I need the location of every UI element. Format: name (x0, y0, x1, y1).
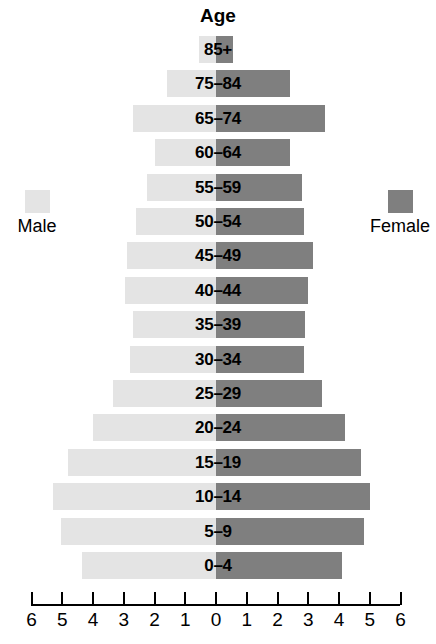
pyramid-row: 25–29 (0, 380, 436, 407)
axis-tick-label: 5 (49, 608, 75, 632)
axis-tick-label: 0 (203, 608, 229, 632)
age-group-label: 10–14 (0, 483, 436, 510)
axis-tick-label: 6 (19, 608, 45, 632)
age-group-label: 25–29 (0, 380, 436, 407)
axis-tick (338, 592, 340, 605)
legend-label-female: Female (366, 215, 434, 237)
age-group-label: 40–44 (0, 277, 436, 304)
axis-tick-label: 4 (80, 608, 106, 632)
pyramid-row: 75–84 (0, 70, 436, 97)
age-group-label: 30–34 (0, 346, 436, 373)
age-group-label: 60–64 (0, 139, 436, 166)
chart-plot-area: 85+75–8465–7460–6455–5950–5445–4940–4435… (0, 36, 436, 588)
age-group-label: 15–19 (0, 449, 436, 476)
legend-label-male: Male (2, 215, 72, 237)
pyramid-row: 85+ (0, 36, 436, 63)
axis-tick-label: 3 (111, 608, 137, 632)
pyramid-row: 5–9 (0, 518, 436, 545)
legend-swatch-female (388, 190, 413, 213)
pyramid-row: 60–64 (0, 139, 436, 166)
axis-tick (154, 592, 156, 605)
age-group-label: 20–24 (0, 414, 436, 441)
age-group-label: 5–9 (0, 518, 436, 545)
axis-tick-label: 1 (234, 608, 260, 632)
axis-tick (277, 592, 279, 605)
axis-tick (246, 592, 248, 605)
axis-tick (215, 592, 217, 605)
axis-tick-label: 5 (357, 608, 383, 632)
pyramid-row: 20–24 (0, 414, 436, 441)
axis-tick (307, 592, 309, 605)
age-group-label: 35–39 (0, 311, 436, 338)
axis-tick-label: 2 (265, 608, 291, 632)
pyramid-row: 0–4 (0, 552, 436, 579)
age-group-label: 75–84 (0, 70, 436, 97)
legend-swatch-male (25, 190, 50, 213)
pyramid-row: 30–34 (0, 346, 436, 373)
population-pyramid-chart: Age 85+75–8465–7460–6455–5950–5445–4940–… (0, 0, 436, 644)
x-axis: 6543210123456 (0, 592, 436, 644)
axis-tick (400, 592, 402, 605)
age-group-label: 0–4 (0, 552, 436, 579)
legend-item-male: Male (2, 190, 72, 237)
axis-tick-label: 6 (388, 608, 414, 632)
pyramid-row: 35–39 (0, 311, 436, 338)
axis-tick (61, 592, 63, 605)
pyramid-row: 40–44 (0, 277, 436, 304)
axis-tick (369, 592, 371, 605)
axis-tick-label: 3 (295, 608, 321, 632)
pyramid-row: 15–19 (0, 449, 436, 476)
age-group-label: 85+ (0, 36, 436, 63)
age-group-label: 45–49 (0, 242, 436, 269)
pyramid-row: 45–49 (0, 242, 436, 269)
pyramid-row: 10–14 (0, 483, 436, 510)
axis-tick (123, 592, 125, 605)
axis-tick-label: 4 (326, 608, 352, 632)
axis-tick-label: 2 (142, 608, 168, 632)
age-group-label: 65–74 (0, 105, 436, 132)
axis-tick (92, 592, 94, 605)
chart-title: Age (0, 4, 436, 28)
axis-tick (184, 592, 186, 605)
legend-item-female: Female (366, 190, 434, 237)
axis-tick (31, 592, 33, 605)
pyramid-row: 65–74 (0, 105, 436, 132)
axis-tick-label: 1 (172, 608, 198, 632)
